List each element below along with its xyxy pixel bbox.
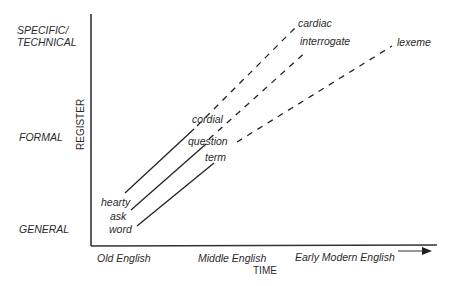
register-level-specific-technical: SPECIFIC/ TECHNICAL (17, 24, 77, 48)
word-question: question (188, 136, 228, 147)
y-axis-title: REGISTER (76, 99, 86, 150)
word-word: word (109, 224, 132, 235)
word-cordial: cordial (192, 114, 223, 125)
time-period-old-english: Old English (97, 252, 151, 264)
word-lexeme: lexeme (397, 37, 431, 48)
word-term: term (205, 152, 226, 163)
time-period-middle-english: Middle English (198, 252, 266, 264)
time-period-early-modern-english: Early Modern English (295, 251, 395, 263)
line-hearty-cordial (125, 129, 194, 193)
register-level-formal: FORMAL (19, 131, 63, 143)
time-arrow-head-icon (422, 247, 432, 255)
word-interrogate: interrogate (300, 36, 350, 47)
line-term-lexeme (237, 46, 392, 142)
word-ask: ask (110, 211, 126, 222)
x-axis-line (91, 245, 437, 246)
word-cardiac: cardiac (298, 18, 332, 29)
register-level-specific: SPECIFIC/ (17, 24, 77, 36)
register-level-technical: TECHNICAL (17, 36, 77, 48)
line-cordial-cardiac (197, 28, 295, 126)
x-axis-title: TIME (253, 266, 277, 276)
register-level-general: GENERAL (19, 223, 69, 235)
word-hearty: hearty (101, 197, 130, 208)
